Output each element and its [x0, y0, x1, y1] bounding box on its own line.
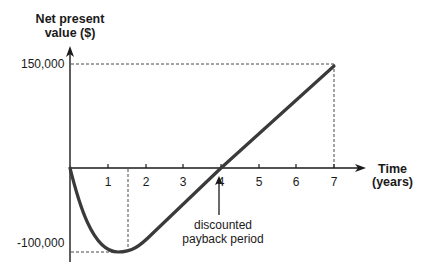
chart-canvas: [0, 0, 429, 272]
guide-lines: [71, 64, 334, 252]
npv-curve: [70, 66, 334, 252]
